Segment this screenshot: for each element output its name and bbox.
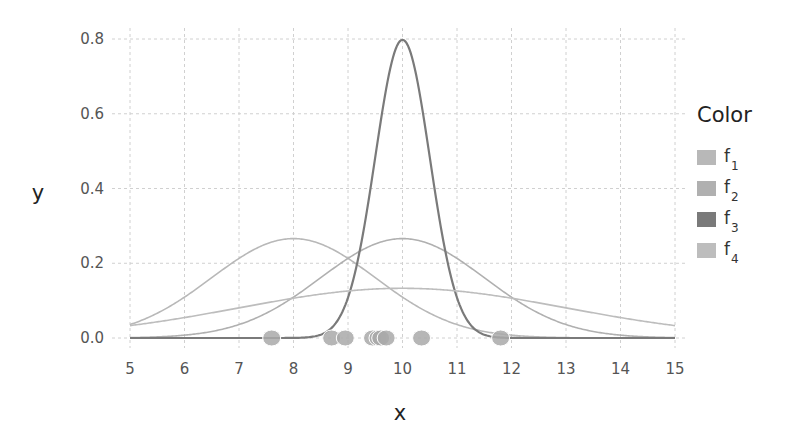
- density-chart: 0.00.20.40.60.8 56789101112131415 y x Co…: [0, 0, 787, 443]
- x-tick-label: 14: [611, 360, 630, 378]
- x-axis-ticks: 56789101112131415: [125, 360, 684, 378]
- x-tick-label: 6: [180, 360, 190, 378]
- legend-label-f3: f3: [724, 208, 739, 235]
- legend-swatch-f1: [697, 150, 716, 165]
- data-point: [377, 330, 395, 346]
- legend-label-f1: f1: [724, 146, 739, 173]
- legend-swatch-f3: [697, 212, 716, 227]
- x-tick-label: 8: [289, 360, 299, 378]
- x-tick-label: 10: [393, 360, 412, 378]
- y-tick-label: 0.8: [80, 30, 104, 48]
- legend-label-f4: f4: [724, 239, 739, 266]
- y-axis-ticks: 0.00.20.40.60.8: [80, 30, 104, 347]
- data-point: [413, 330, 431, 346]
- legend: Color f1f2f3f4: [697, 103, 752, 266]
- data-point: [336, 330, 354, 346]
- x-tick-label: 11: [447, 360, 466, 378]
- legend-swatch-f2: [697, 181, 716, 196]
- y-tick-label: 0.4: [80, 180, 104, 198]
- x-tick-label: 9: [343, 360, 353, 378]
- data-point: [492, 330, 510, 346]
- data-point: [263, 330, 281, 346]
- grid-lines: [112, 28, 688, 348]
- y-tick-label: 0.2: [80, 254, 104, 272]
- y-axis-title: y: [32, 181, 44, 205]
- x-tick-label: 15: [665, 360, 684, 378]
- y-tick-label: 0.6: [80, 105, 104, 123]
- x-axis-title: x: [394, 401, 406, 425]
- x-tick-label: 13: [556, 360, 575, 378]
- x-tick-label: 7: [234, 360, 244, 378]
- x-tick-label: 5: [125, 360, 135, 378]
- y-tick-label: 0.0: [80, 329, 104, 347]
- legend-swatch-f4: [697, 243, 716, 258]
- legend-label-f2: f2: [724, 177, 739, 204]
- legend-title: Color: [697, 103, 752, 127]
- x-tick-label: 12: [502, 360, 521, 378]
